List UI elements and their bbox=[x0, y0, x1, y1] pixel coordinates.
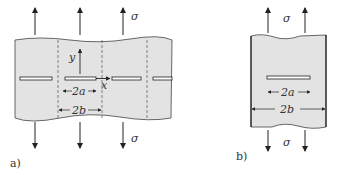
diagram-canvas: σ σ y x 2a 2b a) σ σ 2a 2b b) bbox=[0, 0, 342, 175]
stress-label-bottom: σ bbox=[131, 132, 139, 145]
dim-label-2a: 2a bbox=[280, 86, 295, 99]
crack bbox=[267, 76, 310, 79]
crack bbox=[112, 77, 141, 80]
figure-a: σ σ y x 2a 2b a) bbox=[10, 8, 172, 170]
figure-label-b: b) bbox=[236, 150, 247, 163]
dim-label-2b: 2b bbox=[279, 103, 294, 116]
y-axis-label: y bbox=[68, 51, 76, 64]
stress-label-bottom: σ bbox=[283, 136, 291, 149]
stress-label-top: σ bbox=[131, 10, 139, 23]
crack bbox=[20, 77, 52, 80]
crack bbox=[65, 77, 96, 80]
stress-label-top: σ bbox=[283, 12, 291, 25]
x-axis-label: x bbox=[101, 79, 108, 92]
dim-label-2a: 2a bbox=[71, 85, 86, 98]
crack bbox=[153, 77, 172, 80]
figure-b: σ σ 2a 2b b) bbox=[236, 8, 326, 163]
dim-label-2b: 2b bbox=[71, 104, 86, 117]
figure-label-a: a) bbox=[10, 157, 21, 170]
